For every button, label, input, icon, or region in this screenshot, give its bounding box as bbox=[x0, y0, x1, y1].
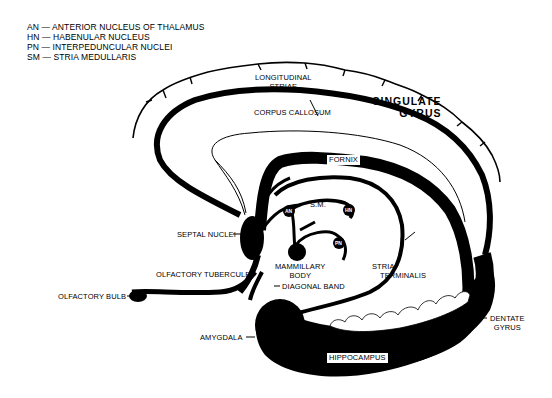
sm-tract-segment bbox=[300, 222, 315, 230]
label-line: Gyrus bbox=[490, 323, 525, 332]
label-line: Striae bbox=[255, 82, 312, 91]
stria-terminalis-leader bbox=[405, 232, 415, 240]
septal-fibers bbox=[215, 160, 300, 230]
label-hippocampus: Hippocampus bbox=[327, 353, 388, 363]
label-line: Body bbox=[275, 271, 325, 280]
amygdala-shape bbox=[255, 299, 305, 351]
mammillary-body-shape bbox=[288, 243, 306, 261]
legend-abbr: SM bbox=[27, 52, 40, 62]
legend-text: Anterior Nucleus of Thalamus bbox=[52, 22, 204, 32]
limbic-system-diagram: AN — Anterior Nucleus of Thalamus HN — H… bbox=[0, 0, 552, 398]
legend-row: HN — Habenular Nucleus bbox=[27, 32, 204, 42]
legend-sep: — bbox=[42, 52, 51, 62]
label-line: Stria bbox=[372, 262, 426, 271]
label-line: Gyrus bbox=[372, 107, 441, 119]
legend-sep: — bbox=[42, 32, 51, 42]
label-line: Mammillary bbox=[275, 262, 325, 271]
legend-sep: — bbox=[41, 22, 50, 32]
label-line: Dentate bbox=[490, 314, 525, 323]
label-amygdala: Amygdala bbox=[200, 333, 242, 342]
legend-row: SM — Stria Medullaris bbox=[27, 52, 204, 62]
label-line: Terminalis bbox=[372, 271, 426, 280]
label-cingulate-gyrus: Cingulate Gyrus bbox=[372, 95, 441, 119]
label-line: Cingulate bbox=[372, 95, 441, 107]
legend-text: Interpeduncular Nuclei bbox=[53, 42, 173, 52]
legend-text: Habenular Nucleus bbox=[53, 32, 150, 42]
label-septal-nuclei: Septal Nuclei bbox=[177, 230, 236, 239]
label-an: AN bbox=[285, 208, 292, 214]
legend-text: Stria Medullaris bbox=[54, 52, 137, 62]
label-line: Longitudinal bbox=[255, 73, 312, 82]
label-diagonal-band: Diagonal Band bbox=[282, 282, 345, 291]
label-stria-terminalis: Stria Terminalis bbox=[372, 262, 426, 280]
legend-sep: — bbox=[41, 42, 50, 52]
label-stria-medullaris: S.M. bbox=[310, 200, 326, 209]
legend-abbr: PN bbox=[27, 42, 39, 52]
label-olfactory-tubercule: Olfactory Tubercule bbox=[156, 270, 250, 279]
abbreviation-legend: AN — Anterior Nucleus of Thalamus HN — H… bbox=[27, 22, 204, 62]
label-hn: HN bbox=[345, 207, 352, 213]
legend-row: PN — Interpeduncular Nuclei bbox=[27, 42, 204, 52]
septal-nuclei-shape bbox=[240, 216, 264, 260]
olfactory-bulb-shape bbox=[129, 290, 147, 302]
label-corpus-callosum: Corpus Callosum bbox=[254, 108, 331, 117]
label-longitudinal-striae: Longitudinal Striae bbox=[255, 73, 312, 91]
cingulate-gyrus-outline bbox=[133, 62, 500, 182]
label-mammillary-body: Mammillary Body bbox=[275, 262, 325, 280]
label-dentate-gyrus: Dentate Gyrus bbox=[490, 314, 525, 332]
legend-abbr: AN bbox=[27, 22, 39, 32]
label-pn: PN bbox=[335, 240, 342, 246]
label-olfactory-bulb: Olfactory Bulb bbox=[58, 292, 126, 301]
label-fornix: Fornix bbox=[327, 155, 360, 165]
legend-abbr: HN bbox=[27, 32, 39, 42]
legend-row: AN — Anterior Nucleus of Thalamus bbox=[27, 22, 204, 32]
